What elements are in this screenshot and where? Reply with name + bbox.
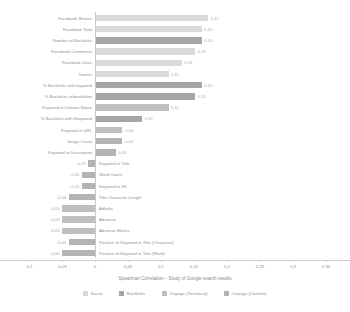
legend-item[interactable]: Backlinks (119, 291, 145, 296)
category-label: Facebook Shares (58, 13, 92, 24)
bar[interactable] (96, 116, 142, 122)
x-tick-label: 0,2 (224, 264, 230, 269)
bar[interactable] (96, 127, 122, 133)
x-tick-label: 0,05 (124, 264, 133, 269)
category-label: Adsense (99, 214, 116, 225)
bar-row: % Backlinks rel=nofollow0,15 (0, 91, 350, 102)
bar[interactable] (96, 93, 195, 99)
x-tick-label: 0,1 (158, 264, 164, 269)
bar[interactable] (96, 37, 202, 43)
bar[interactable] (96, 48, 195, 54)
bar-row: Adsense Blocks-0,05 (0, 225, 350, 236)
bar-value-label: 0,15 (198, 46, 206, 57)
legend-item[interactable]: Onpage (Technical) (162, 291, 207, 296)
bar-value-label: -0,04 (57, 237, 67, 248)
x-axis-label: Spearman Correlation – Study of Google s… (0, 276, 350, 281)
bar-row: Keyword in H1-0,02 (0, 181, 350, 192)
bar[interactable] (96, 82, 202, 88)
bar[interactable] (96, 15, 208, 21)
bar-value-label: -0,05 (50, 203, 60, 214)
bar[interactable] (88, 160, 95, 166)
legend-swatch-icon (162, 291, 167, 296)
legend-item[interactable]: Social (83, 291, 102, 296)
category-label: Keyword in URL (61, 125, 92, 136)
bar-row: Number of Backlinks0,16 (0, 35, 350, 46)
bar-row: Image Count0,04 (0, 136, 350, 147)
bar-value-label: -0,05 (50, 225, 60, 236)
category-label: Word Count (99, 169, 122, 180)
bar-value-label: 0,17 (211, 13, 219, 24)
category-label: Position of Keyword in Title (Character) (99, 237, 174, 248)
bar[interactable] (96, 60, 182, 66)
category-label: % Backlinks with Stopword (41, 113, 92, 124)
bar-row: Position of Keyword in Title (Character)… (0, 237, 350, 248)
x-tick (128, 260, 129, 262)
bar[interactable] (96, 104, 169, 110)
legend-swatch-icon (224, 291, 229, 296)
x-tick-label: 0,3 (290, 264, 296, 269)
bar[interactable] (82, 183, 95, 189)
bar-value-label: 0,11 (171, 69, 179, 80)
bar[interactable] (96, 26, 202, 32)
x-tick (293, 260, 294, 262)
x-tick (260, 260, 261, 262)
legend-swatch-icon (83, 291, 88, 296)
category-label: Keyword in H1 (99, 181, 127, 192)
x-tick-label: 0,35 (322, 264, 331, 269)
bar-value-label: -0,02 (70, 169, 80, 180)
plot-area: Facebook Shares0,17Facebook Total0,16Num… (0, 12, 350, 260)
legend-label: Onpage (Technical) (169, 291, 207, 296)
category-label: Adlinks (99, 203, 113, 214)
category-label: Keyword in Title (99, 158, 129, 169)
chart-legend: SocialBacklinksOnpage (Technical)Onpage … (0, 291, 350, 296)
legend-swatch-icon (119, 291, 124, 296)
legend-item[interactable]: Onpage (Content) (224, 291, 266, 296)
category-label: Adsense Blocks (99, 225, 130, 236)
category-label: Keyword in Description (48, 147, 92, 158)
bar-row: Keyword in Title-0,01 (0, 158, 350, 169)
bar-value-label: 0,16 (204, 80, 212, 91)
bar-row: Title Character Length-0,04 (0, 192, 350, 203)
bar[interactable] (96, 71, 169, 77)
bar-value-label: 0,04 (125, 136, 133, 147)
bar[interactable] (69, 239, 95, 245)
x-tick (326, 260, 327, 262)
bar-value-label: -0,05 (50, 248, 60, 259)
bar[interactable] (96, 138, 122, 144)
category-label: Keyword in Domain Name (42, 102, 92, 113)
bar-value-label: 0,13 (184, 57, 192, 68)
category-label: Position of Keyword in Title (Word) (99, 248, 165, 259)
bar[interactable] (69, 194, 95, 200)
bar-value-label: 0,04 (125, 125, 133, 136)
bar-row: Tweets0,11 (0, 69, 350, 80)
legend-label: Social (90, 291, 102, 296)
bar-value-label: 0,07 (145, 113, 153, 124)
x-tick (194, 260, 195, 262)
bar[interactable] (82, 172, 95, 178)
category-label: Facebook Comments (51, 46, 92, 57)
bar-chart: Facebook Shares0,17Facebook Total0,16Num… (0, 0, 350, 312)
bar-value-label: 0,16 (204, 35, 212, 46)
category-label: Image Count (67, 136, 92, 147)
bar[interactable] (62, 205, 95, 211)
bar-value-label: 0,15 (198, 91, 206, 102)
bar-row: Keyword in Description0,03 (0, 147, 350, 158)
category-label: % Backlinks rel=nofollow (45, 91, 92, 102)
x-tick-label: 0 (94, 264, 96, 269)
bar[interactable] (96, 149, 116, 155)
bar-value-label: 0,11 (171, 102, 179, 113)
x-tick (29, 260, 30, 262)
bar-value-label: -0,05 (50, 214, 60, 225)
bar-row: Facebook Shares0,17 (0, 13, 350, 24)
bar[interactable] (62, 250, 95, 256)
x-tick-label: -0,05 (57, 264, 67, 269)
category-label: Number of Backlinks (53, 35, 92, 46)
bar[interactable] (62, 216, 95, 222)
bar[interactable] (62, 228, 95, 234)
category-label: % Backlinks with keyword (43, 80, 92, 91)
bar-row: % Backlinks with keyword0,16 (0, 80, 350, 91)
x-tick (95, 260, 96, 262)
x-tick-label: 0,15 (190, 264, 199, 269)
bar-row: Facebook Comments0,15 (0, 46, 350, 57)
category-label: Facebook Total (63, 24, 92, 35)
